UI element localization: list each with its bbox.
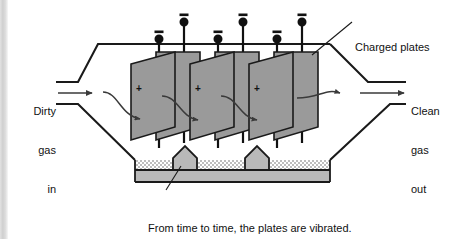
electrode-ball-5 [274, 36, 281, 43]
plate-4-charge: + [195, 83, 201, 94]
leader-charged-plates [312, 22, 352, 55]
settled-dust-body [135, 170, 330, 182]
dust-mound-1 [173, 146, 197, 170]
electrode-minus-1 [155, 31, 164, 34]
outlet-bottom-wall [330, 104, 406, 160]
dust-hopper [135, 146, 330, 182]
electrode-minus-4 [239, 14, 248, 17]
electrode-ball-2 [181, 19, 188, 26]
electrostatic-precipitator-figure: + + + + + + [0, 0, 463, 239]
electrode-minus-5 [273, 31, 282, 34]
dust-stipple-band [135, 160, 330, 170]
caption-label: From time to time, the plates are vibrat… [148, 196, 352, 239]
charged-plates-label: Charged plates [355, 15, 430, 80]
inlet-label-line2: gas [8, 144, 56, 157]
outlet-label-line2: gas [411, 144, 463, 157]
plate-4 [190, 52, 234, 140]
caption-line1: From time to time, the plates are vibrat… [148, 222, 352, 235]
dust-mound-2 [245, 146, 269, 170]
electrode-minus-3 [214, 31, 223, 34]
inlet-bottom-wall [56, 104, 135, 160]
plate-6-charge: + [254, 83, 260, 94]
electrode-ball-6 [299, 19, 306, 26]
plate-2-charge: + [136, 83, 142, 94]
inlet-label: Dirty gas in [8, 79, 56, 222]
electrode-minus-6 [298, 14, 307, 17]
electrode-ball-1 [156, 36, 163, 43]
electrode-minus-2 [180, 14, 189, 17]
electrode-ball-3 [215, 36, 222, 43]
electrode-ball-4 [240, 19, 247, 26]
charged-plates-label-text: Charged plates [355, 41, 430, 54]
plate-2 [131, 52, 175, 140]
inlet-label-line1: Dirty [8, 105, 56, 118]
outlet-label: Clean gas out [411, 79, 463, 222]
plate-6 [249, 52, 293, 140]
inlet-label-line3: in [8, 183, 56, 196]
outlet-label-line3: out [411, 183, 463, 196]
outlet-label-line1: Clean [411, 105, 463, 118]
